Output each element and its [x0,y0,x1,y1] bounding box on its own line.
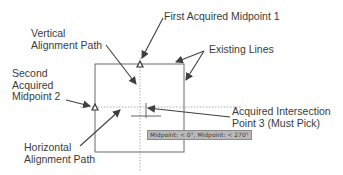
arrow-existing-lines-right [186,51,204,80]
arrow-first-midpoint [142,18,163,58]
label-first-acquired-midpoint: First Acquired Midpoint 1 [164,11,280,23]
crosshair-icon [131,103,161,118]
arrow-horizontal-path [80,110,120,146]
label-horizontal-alignment-path: Horizontal Alignment Path [24,142,95,165]
arrow-existing-lines-top [176,51,204,62]
label-vertical-alignment-path: Vertical Alignment Path [31,28,102,51]
triangle-icon [137,61,143,67]
label-second-acquired-midpoint: Second Acquired Midpoint 2 [12,68,60,103]
label-acquired-intersection: Acquired Intersection Point 3 (Must Pick… [232,106,331,129]
label-existing-lines: Existing Lines [209,44,274,56]
tracking-tooltip: Midpoint: < 0°, Midpoint: < 270° [147,130,252,140]
arrow-second-midpoint [66,100,90,106]
triangle-icon [92,104,98,110]
